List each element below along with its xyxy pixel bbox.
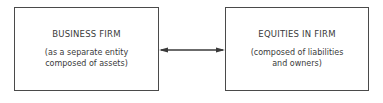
business-firm-desc-line2: composed of assets)	[15, 58, 158, 69]
equities-desc-line2: and owners)	[226, 58, 368, 69]
equities-description: (composed of liabilities and owners)	[226, 47, 368, 69]
equities-title: EQUITIES IN FIRM	[226, 29, 368, 39]
bidirectional-arrow-icon	[158, 44, 226, 56]
equities-in-firm-box: EQUITIES IN FIRM (composed of liabilitie…	[225, 7, 369, 91]
business-firm-title: BUSINESS FIRM	[15, 29, 158, 39]
business-firm-box: BUSINESS FIRM (as a separate entity comp…	[14, 7, 159, 91]
equities-desc-line1: (composed of liabilities	[226, 47, 368, 58]
business-firm-description: (as a separate entity composed of assets…	[15, 47, 158, 69]
business-firm-desc-line1: (as a separate entity	[15, 47, 158, 58]
